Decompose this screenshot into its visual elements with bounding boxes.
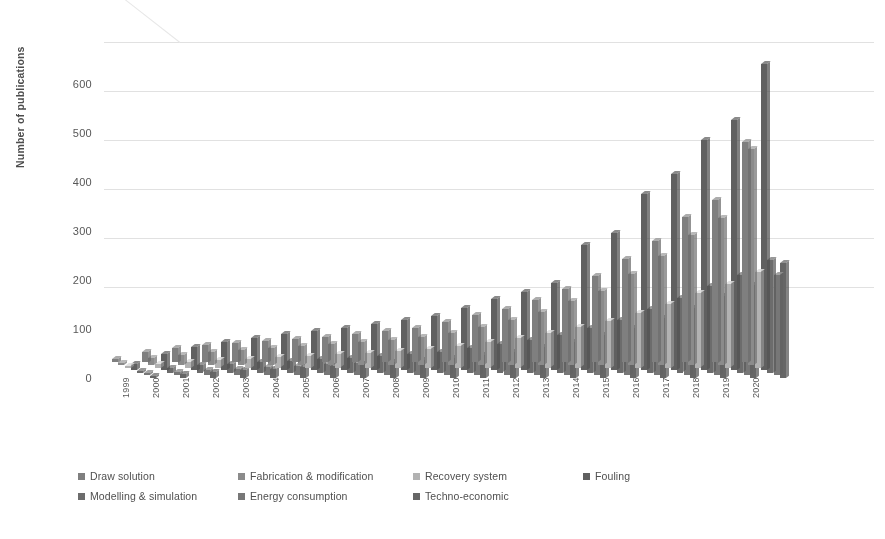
y-tick-500: 500 [46,127,92,139]
bar-face [174,372,180,375]
bar-side [521,336,524,368]
legend-item-fouling[interactable]: Fouling [583,470,808,482]
bar-1999-energy-consumption [144,373,150,375]
legend-swatch-icon [238,473,245,480]
bar-2014-draw-solution [562,289,568,363]
bar-side [731,282,734,368]
x-tick-2020: 2020 [751,378,761,399]
bar-side [551,331,554,368]
y-tick-600: 600 [46,78,92,90]
bar-side [424,334,427,365]
bar-side [527,289,530,370]
legend-label: Fabrication & modification [250,470,373,482]
y-tick-200: 200 [46,274,92,286]
x-tick-2011: 2011 [481,378,491,398]
x-tick-1999: 1999 [121,378,131,399]
legend-label: Fouling [595,470,630,482]
bar-side [328,335,331,363]
bar-side [178,345,181,362]
legend-item-energy-consumption[interactable]: Energy consumption [238,490,413,502]
bar-side [407,318,410,370]
bar-side [724,216,727,365]
legend-item-recovery-system[interactable]: Recovery system [413,470,583,482]
bar-side [773,258,776,373]
bar-side [478,313,481,362]
bar-1999-draw-solution [112,359,118,363]
bar-side [664,254,667,365]
bar-side [377,322,380,370]
bar-side [437,314,440,370]
bar-side [557,281,560,371]
legend-swatch-icon [238,493,245,500]
bar-side [304,344,307,365]
bar-side [341,352,344,368]
bar-1999-fabrication-modification [118,363,124,365]
chart-legend: Draw solutionFabrication & modificationR… [78,466,808,506]
bar-side [300,363,303,375]
y-axis-tick-labels: 6005004003002001000 [46,60,92,390]
bar-side [311,354,314,368]
bar-side [617,231,620,371]
x-tick-2006: 2006 [331,378,341,399]
bar-side [364,340,367,365]
bar-side [418,326,421,363]
bar-2009-draw-solution [412,328,418,362]
bar-side [347,326,350,370]
bar-side [737,118,740,370]
bar-side [671,302,674,368]
bar-side [238,340,241,362]
bar-side [634,272,637,365]
bar-2003-draw-solution [232,343,238,363]
legend-swatch-icon [78,493,85,500]
publications-bar-chart: Number of publications 60050040030020010… [0,0,885,539]
bar-side [240,366,243,375]
x-tick-2008: 2008 [391,378,401,399]
x-tick-2014: 2014 [571,378,581,399]
bar-1999-recovery-system [125,366,131,368]
bar-side [257,336,260,371]
bar-2006-draw-solution [322,337,328,362]
x-axis-tick-labels: 1999200020012002200320042005200620072008… [104,384,874,444]
bar-2000-draw-solution [142,352,148,363]
bar-side [268,339,271,363]
bar-2000-recovery-system [155,364,161,368]
legend-swatch-icon [583,473,590,480]
bar-side [598,274,601,363]
bar-side [317,329,320,371]
bar-side [694,232,697,365]
bar-side [701,291,704,368]
bar-side [491,340,494,368]
bar-side [780,273,783,376]
bar-2008-draw-solution [382,331,388,362]
bar-side [677,172,680,370]
legend-item-modelling-simulation[interactable]: Modelling & simulation [78,490,238,502]
legend-item-fabrication-modification[interactable]: Fabrication & modification [238,470,413,482]
bar-side [167,351,170,370]
bar-series-layer [104,18,874,380]
bar-2011-draw-solution [472,315,478,362]
bar-2020-draw-solution [742,142,748,363]
legend-item-draw-solution[interactable]: Draw solution [78,470,238,482]
bar-side [538,297,541,362]
y-tick-300: 300 [46,225,92,237]
bar-2010-draw-solution [442,322,448,362]
bar-face [155,364,161,368]
legend-item-techno-economic[interactable]: Techno-economic [413,490,583,502]
bar-side [508,306,511,362]
bar-side [514,318,517,365]
x-tick-2016: 2016 [631,378,641,399]
bar-side [388,329,391,363]
bar-side [401,349,404,368]
bar-2000-energy-consumption [174,372,180,375]
legend-label: Recovery system [425,470,507,482]
bar-side [358,332,361,363]
bar-side [431,347,434,368]
bar-side [394,337,397,365]
x-tick-2015: 2015 [601,378,611,399]
bar-2007-draw-solution [352,334,358,362]
legend-swatch-icon [413,473,420,480]
bar-side [611,318,614,367]
bar-face [150,376,156,378]
x-tick-2005: 2005 [301,378,311,399]
x-tick-2007: 2007 [361,378,371,399]
